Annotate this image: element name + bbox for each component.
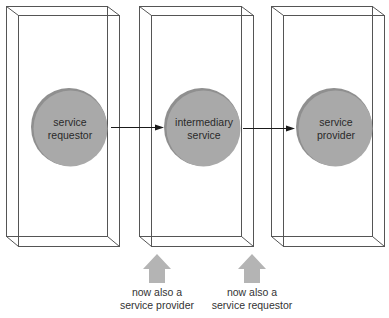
service-chain-diagram: service requestor intermediary service s… xyxy=(0,0,389,318)
up-arrow-icon xyxy=(143,254,171,283)
node-label-line2: service xyxy=(187,129,220,141)
node-label-line1: intermediary xyxy=(175,116,234,128)
node-label-line1: service xyxy=(53,116,86,128)
flow-arrow-requestor-to-intermediary xyxy=(111,125,164,131)
annotation-requestor-line1: now also a xyxy=(227,286,277,298)
up-arrow-icon xyxy=(238,254,266,283)
arrowhead-icon xyxy=(155,125,164,131)
annotation-requestor-line2: service requestor xyxy=(212,299,293,311)
annotation-provider-line2: service provider xyxy=(120,299,195,311)
flow-arrow-intermediary-to-provider xyxy=(243,126,295,132)
node-label-line2: requestor xyxy=(48,129,93,141)
node-label-line1: service xyxy=(319,116,352,128)
node-service-provider: service provider xyxy=(296,88,373,167)
annotation-provider-line1: now also a xyxy=(132,286,182,298)
arrowhead-icon xyxy=(286,126,295,132)
node-label-line2: provider xyxy=(317,129,355,141)
node-intermediary-service: intermediary service xyxy=(164,88,241,167)
node-service-requestor: service requestor xyxy=(31,88,108,167)
